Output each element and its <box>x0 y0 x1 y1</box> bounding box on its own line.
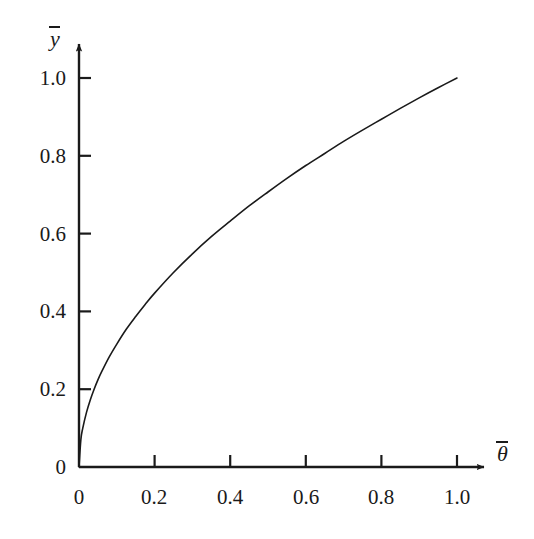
y-tick-label-4: 0.8 <box>18 146 66 167</box>
data-curve-series-0 <box>79 78 457 467</box>
y-axis-title: y <box>50 28 60 50</box>
y-axis-ticks <box>79 78 91 389</box>
x-axis-title: θ <box>497 443 508 465</box>
y-tick-label-1: 0.2 <box>18 379 66 400</box>
x-tick-label-4: 0.8 <box>351 487 411 508</box>
x-tick-label-2: 0.4 <box>200 487 260 508</box>
x-axis-title-text: θ <box>497 443 508 465</box>
y-tick-label-5: 1.0 <box>18 68 66 89</box>
plot-canvas <box>0 0 534 539</box>
x-tick-label-3: 0.6 <box>276 487 336 508</box>
x-tick-label-1: 0.2 <box>124 487 184 508</box>
x-axis-ticks <box>155 455 457 467</box>
y-axis-title-text: y <box>50 28 60 50</box>
y-tick-label-3: 0.6 <box>18 224 66 245</box>
chart-figure: 0 0.2 0.4 0.6 0.8 1.0 0 0.2 0.4 0.6 0.8 … <box>0 0 534 539</box>
x-tick-label-0: 0 <box>49 487 109 508</box>
y-tick-label-2: 0.4 <box>18 301 66 322</box>
x-tick-label-5: 1.0 <box>427 487 487 508</box>
y-tick-label-0: 0 <box>18 457 66 478</box>
